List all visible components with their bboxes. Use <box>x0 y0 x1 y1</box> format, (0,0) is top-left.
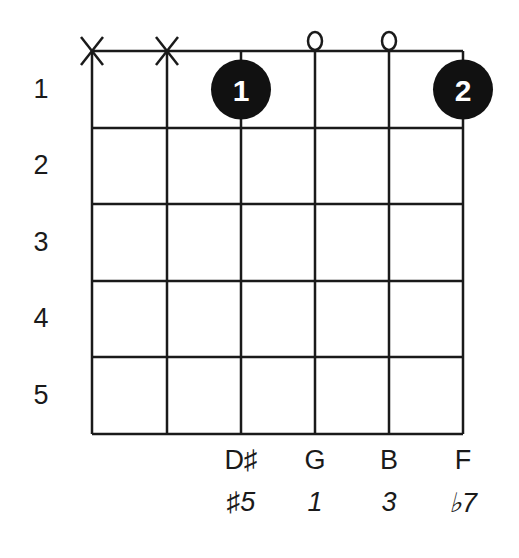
finger-dot: 1 <box>211 60 271 120</box>
fretboard-grid <box>92 51 463 434</box>
interval-label: 3 <box>359 487 419 518</box>
interval-label: ♭7 <box>433 487 493 519</box>
fret-number: 2 <box>26 150 56 181</box>
note-name: D♯ <box>211 445 271 476</box>
fret-number: 1 <box>26 74 56 105</box>
note-name: G <box>285 445 345 476</box>
note-name: B <box>359 445 419 476</box>
interval-label: 1 <box>285 487 345 518</box>
interval-label: ♯5 <box>211 487 271 518</box>
fret-number: 5 <box>26 380 56 411</box>
fret-number: 3 <box>26 227 56 258</box>
finger-dot: 2 <box>433 60 493 120</box>
finger-dots: 12 <box>211 60 493 120</box>
finger-number: 1 <box>233 74 250 107</box>
open-string-o-icon <box>308 32 322 50</box>
open-string-o-icon <box>382 32 396 50</box>
finger-number: 2 <box>455 74 472 107</box>
note-name: F <box>433 445 493 476</box>
fret-number: 4 <box>26 303 56 334</box>
